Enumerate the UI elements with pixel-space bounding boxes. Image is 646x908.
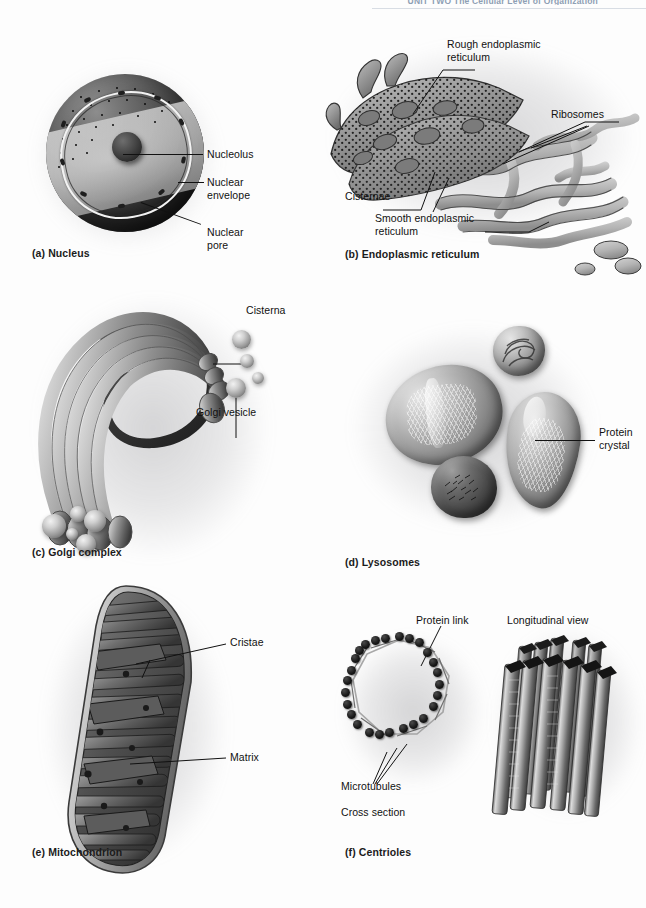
caption-panel-e: (e) Mitochondrion [32,846,122,858]
label-ribosomes: Ribosomes [551,108,604,121]
figure-page: UNIT TWO The Cellular Level of Organizat… [0,0,646,908]
panel-mitochondrion: Cristae Matrix (e) Mitochondrion [0,578,323,878]
label-nuclear-envelope: Nuclear envelope [207,176,250,201]
label-cisternae: Cisternae [345,190,390,203]
lysosome-art [431,456,497,518]
golgi-vesicle-art [66,528,78,540]
panel-golgi-complex: Cisterna Golgi vesicle (c) Golgi complex [0,278,323,578]
centrioles-art [323,588,646,888]
microtubule-dot [341,688,350,697]
panel-endoplasmic-reticulum: Rough endoplasmic reticulum Ribosomes Ci… [323,26,646,278]
label-protein-link: Protein link [416,614,469,627]
microtubule-dot [353,720,362,729]
running-head-rule [372,8,646,9]
microtubule-dot [433,691,442,700]
label-microtubules: Microtubules [341,780,401,793]
panel-lysosomes: Protein crystal (d) Lysosomes [323,298,646,578]
microtubule-dot [371,636,380,645]
microtubule-dot [415,638,424,647]
microtubule-dot [343,676,352,685]
er-art [323,26,646,278]
nucleolus-art [112,132,142,162]
microtubule-dot [419,714,428,723]
leader-protein-crystal [535,440,595,441]
label-nuclear-pore: Nuclear pore [207,226,244,251]
leader-nuclear-envelope [178,182,204,183]
microtubule-dot [343,700,352,709]
caption-panel-c: (c) Golgi complex [32,546,122,558]
microtubule-dot [385,728,394,737]
golgi-vesicle-art [240,354,254,368]
microtubule-dot [429,658,438,667]
microtubule-dot [347,666,356,675]
label-matrix: Matrix [230,751,259,764]
label-cisterna: Cisterna [246,304,286,317]
running-head: UNIT TWO The Cellular Level of Organizat… [0,0,646,5]
microtubule-dot [429,702,438,711]
caption-panel-b: (b) Endoplasmic reticulum [345,248,479,260]
microtubule-dot [375,730,384,739]
label-golgi-vesicle: Golgi vesicle [196,406,256,419]
label-nucleolus: Nucleolus [207,148,254,161]
microtubule-dot [409,720,418,729]
panel-nucleus: Nucleolus Nuclear envelope Nuclear pore … [0,26,323,278]
microtubule-dot [405,634,414,643]
lysosome-art [497,387,586,512]
golgi-vesicle-art [226,378,246,398]
microtubule-dot [395,632,404,641]
leader-nucleolus [123,154,203,155]
microtubule-dot [381,634,390,643]
golgi-vesicle-art [42,514,66,538]
microtubule-dot [355,646,364,655]
label-cross-section: Cross section [341,806,405,819]
microtubule-dot [435,680,444,689]
caption-panel-d: (d) Lysosomes [345,556,420,568]
caption-panel-a: (a) Nucleus [32,247,90,259]
label-longitudinal-view: Longitudinal view [507,614,588,627]
nucleus-sphere-art [46,74,204,232]
microtubule-dot [399,724,408,733]
label-protein-crystal: Protein crystal [599,426,633,451]
label-rough-er: Rough endoplasmic reticulum [447,38,541,63]
microtubule-dot [347,710,356,719]
golgi-vesicle-art [252,372,264,384]
mitochondrion-art [0,578,323,878]
label-cristae: Cristae [230,636,264,649]
microtubule-dot [351,654,360,663]
lysosome-art [493,326,545,376]
microtubule-dot [365,728,374,737]
microtubule-dot [423,648,432,657]
panel-centrioles: Protein link Longitudinal view Microtubu… [323,588,646,888]
golgi-vesicle-art [232,330,251,349]
golgi-vesicle-art [84,510,106,532]
caption-panel-f: (f) Centrioles [345,846,411,858]
label-smooth-er: Smooth endoplasmic reticulum [375,212,474,237]
microtubule-dot [433,668,442,677]
